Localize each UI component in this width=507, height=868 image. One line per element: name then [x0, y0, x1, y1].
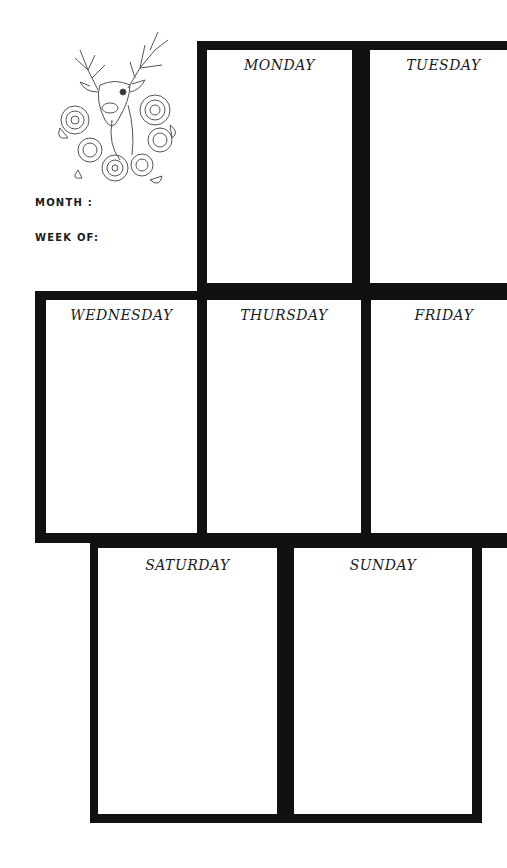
week-of-label: WEEK OF: — [35, 232, 99, 243]
day-label-monday: MONDAY — [207, 57, 352, 73]
month-label: MONTH : — [35, 197, 93, 208]
day-box-thursday[interactable]: THURSDAY — [207, 300, 361, 533]
day-label-thursday: THURSDAY — [207, 307, 361, 323]
day-label-sunday: SUNDAY — [294, 557, 472, 573]
day-box-friday[interactable]: FRIDAY — [371, 300, 507, 533]
day-label-wednesday: WEDNESDAY — [46, 307, 197, 323]
deer-illustration — [50, 20, 180, 190]
row3-top-extension — [90, 533, 507, 548]
day-box-tuesday[interactable]: TUESDAY — [370, 50, 507, 283]
day-label-saturday: SATURDAY — [98, 557, 277, 573]
day-box-monday[interactable]: MONDAY — [207, 50, 352, 283]
day-label-tuesday: TUESDAY — [366, 57, 507, 73]
day-box-wednesday[interactable]: WEDNESDAY — [46, 300, 197, 533]
day-box-sunday[interactable]: SUNDAY — [294, 548, 472, 814]
row-divider-1 — [197, 283, 507, 300]
day-box-saturday[interactable]: SATURDAY — [98, 548, 277, 814]
day-label-friday: FRIDAY — [367, 307, 507, 323]
